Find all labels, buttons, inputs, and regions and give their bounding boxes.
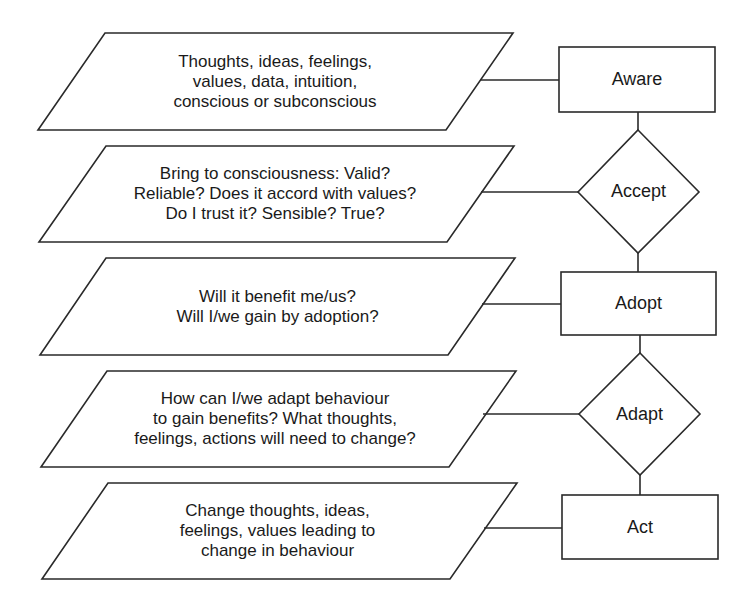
input-text-3: Will it benefit me/us? Will I/we gain by… [110, 258, 445, 355]
input-text-2: Bring to consciousness: Valid? Reliable?… [100, 146, 450, 242]
stage-label-adopt: Adopt [561, 272, 716, 335]
stage-label-aware: Aware [559, 47, 715, 112]
input-text-4: How can I/we adapt behaviour to gain ben… [100, 371, 450, 467]
input-text-5: Change thoughts, ideas, feelings, values… [110, 483, 445, 579]
stage-label-act: Act [562, 495, 718, 559]
stage-label-accept: Accept [578, 130, 699, 253]
input-text-1: Thoughts, ideas, feelings, values, data,… [110, 33, 440, 130]
stage-label-adapt: Adapt [579, 353, 700, 475]
